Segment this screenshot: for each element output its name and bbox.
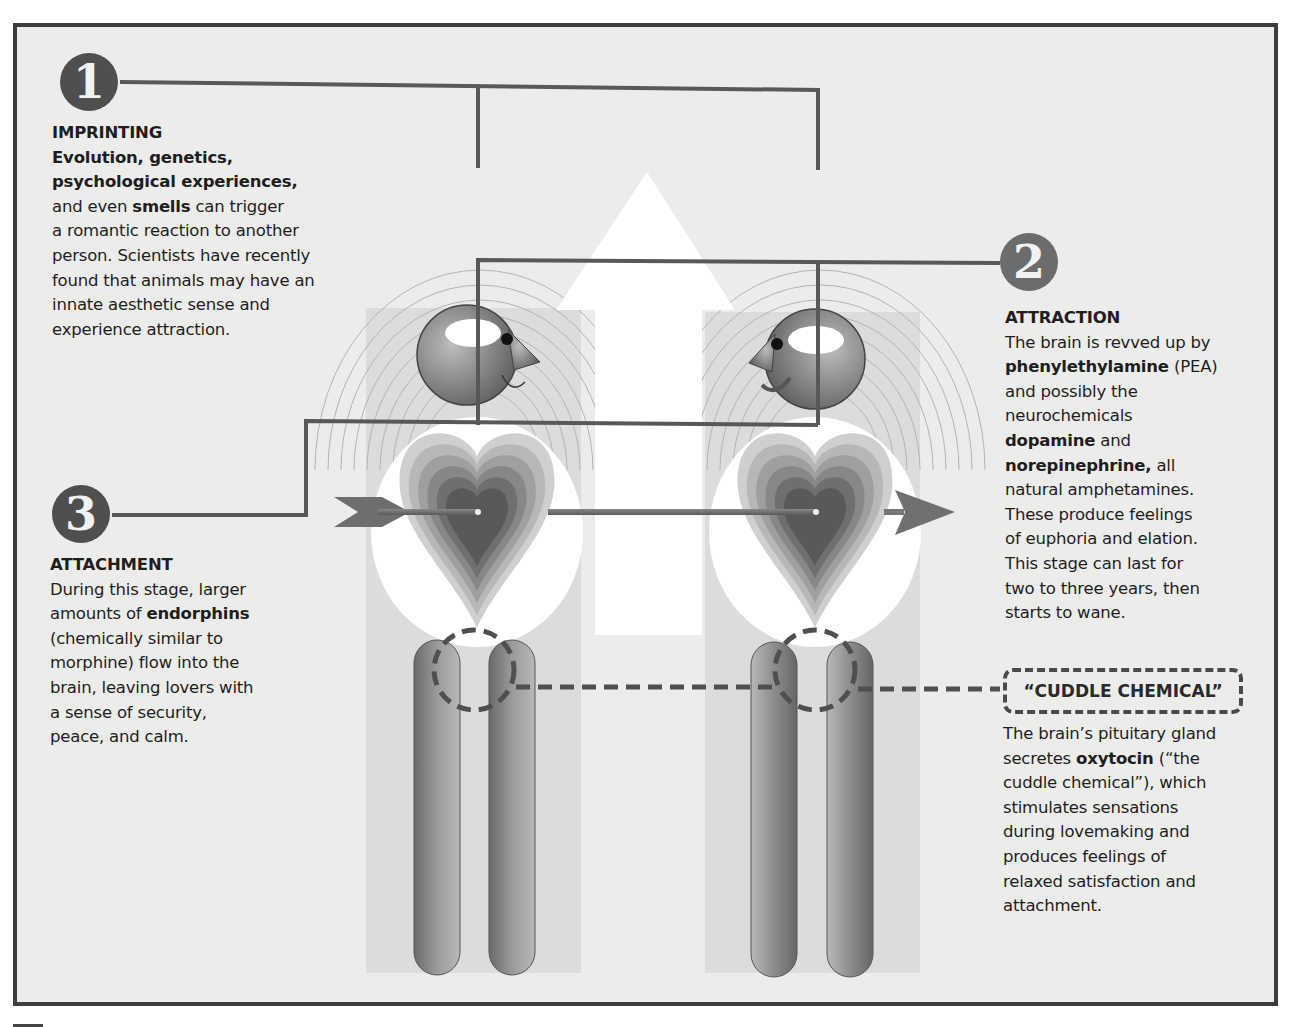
- stage-1-title: IMPRINTING: [52, 121, 342, 146]
- stage-1-badge: 1: [60, 53, 118, 111]
- emphasis-term: smells: [132, 197, 190, 216]
- text-segment: cuddle chemical”), which: [1003, 773, 1206, 792]
- text-segment: The brain is revved up by: [1005, 333, 1210, 352]
- text-segment: peace, and calm.: [50, 727, 189, 746]
- text-line: brain, leaving lovers with: [50, 676, 310, 701]
- text-segment: a romantic reaction to another: [52, 221, 299, 240]
- text-line: morphine) flow into the: [50, 651, 310, 676]
- stage-1-description: IMPRINTING Evolution, genetics,psycholog…: [52, 121, 342, 342]
- text-line: neurochemicals: [1005, 404, 1255, 429]
- stage-3-number: 3: [65, 487, 97, 541]
- text-line: during lovemaking and: [1003, 820, 1263, 845]
- stage-2-badge: 2: [1000, 233, 1058, 291]
- text-line: and possibly the: [1005, 380, 1255, 405]
- text-line: peace, and calm.: [50, 725, 310, 750]
- text-segment: attachment.: [1003, 896, 1102, 915]
- text-segment: of euphoria and elation.: [1005, 529, 1198, 548]
- text-segment: can trigger: [190, 197, 283, 216]
- emphasis-term: norepinephrine,: [1005, 456, 1151, 475]
- stage-2-title: ATTRACTION: [1005, 306, 1255, 331]
- text-line: two to three years, then: [1005, 577, 1255, 602]
- text-line: experience attraction.: [52, 318, 342, 343]
- text-segment: During this stage, larger: [50, 580, 246, 599]
- text-line: stimulates sensations: [1003, 796, 1263, 821]
- text-line: These produce feelings: [1005, 503, 1255, 528]
- text-line: phenylethylamine (PEA): [1005, 355, 1255, 380]
- cuddle-chemical-label: “CUDDLE CHEMICAL”: [1003, 668, 1243, 714]
- text-line: The brain is revved up by: [1005, 331, 1255, 356]
- text-line: person. Scientists have recently: [52, 244, 342, 269]
- text-segment: experience attraction.: [52, 320, 230, 339]
- emphasis-term: dopamine: [1005, 431, 1095, 450]
- text-segment: and: [1095, 431, 1131, 450]
- emphasis-term: endorphins: [146, 604, 249, 623]
- stage-2-body: The brain is revved up byphenylethylamin…: [1005, 331, 1255, 626]
- text-segment: and even: [52, 197, 132, 216]
- text-line: During this stage, larger: [50, 578, 310, 603]
- stage-3-badge: 3: [52, 485, 110, 543]
- text-line: a sense of security,: [50, 701, 310, 726]
- text-line: found that animals may have an: [52, 269, 342, 294]
- text-segment: two to three years, then: [1005, 579, 1200, 598]
- stage-1-number: 1: [73, 55, 105, 109]
- text-line: innate aesthetic sense and: [52, 293, 342, 318]
- text-segment: a sense of security,: [50, 703, 207, 722]
- text-line: This stage can last for: [1005, 552, 1255, 577]
- text-line: (chemically similar to: [50, 627, 310, 652]
- text-line: produces feelings of: [1003, 845, 1263, 870]
- text-segment: during lovemaking and: [1003, 822, 1189, 841]
- stage-2-description: ATTRACTION The brain is revved up byphen…: [1005, 306, 1255, 626]
- stage-2-number: 2: [1013, 235, 1045, 289]
- stage-1-body: Evolution, genetics,psychological experi…: [52, 146, 342, 343]
- text-line: natural amphetamines.: [1005, 478, 1255, 503]
- stage-3-description: ATTACHMENT During this stage, largeramou…: [50, 553, 310, 750]
- text-segment: The brain’s pituitary gland: [1003, 724, 1216, 743]
- text-line: attachment.: [1003, 894, 1263, 919]
- text-line: psychological experiences,: [52, 170, 342, 195]
- text-segment: person. Scientists have recently: [52, 246, 310, 265]
- cuddle-chemical-description: The brain’s pituitary glandsecretes oxyt…: [1003, 722, 1263, 919]
- text-segment: These produce feelings: [1005, 505, 1192, 524]
- text-segment: natural amphetamines.: [1005, 480, 1194, 499]
- text-line: dopamine and: [1005, 429, 1255, 454]
- text-segment: neurochemicals: [1005, 406, 1132, 425]
- text-segment: morphine) flow into the: [50, 653, 239, 672]
- text-segment: This stage can last for: [1005, 554, 1183, 573]
- text-segment: found that animals may have an: [52, 271, 315, 290]
- text-line: a romantic reaction to another: [52, 219, 342, 244]
- emphasis-term: oxytocin: [1076, 749, 1154, 768]
- text-line: of euphoria and elation.: [1005, 527, 1255, 552]
- text-line: secretes oxytocin (“the: [1003, 747, 1263, 772]
- stage-3-title: ATTACHMENT: [50, 553, 310, 578]
- text-segment: secretes: [1003, 749, 1076, 768]
- text-line: and even smells can trigger: [52, 195, 342, 220]
- text-segment: (chemically similar to: [50, 629, 223, 648]
- text-line: starts to wane.: [1005, 601, 1255, 626]
- text-segment: amounts of: [50, 604, 146, 623]
- emphasis-term: phenylethylamine: [1005, 357, 1169, 376]
- text-segment: brain, leaving lovers with: [50, 678, 253, 697]
- stage-3-body: During this stage, largeramounts of endo…: [50, 578, 310, 750]
- text-segment: innate aesthetic sense and: [52, 295, 270, 314]
- text-line: relaxed satisfaction and: [1003, 870, 1263, 895]
- emphasis-term: Evolution, genetics,: [52, 148, 233, 167]
- text-line: Evolution, genetics,: [52, 146, 342, 171]
- text-segment: (“the: [1154, 749, 1200, 768]
- text-line: norepinephrine, all: [1005, 454, 1255, 479]
- text-segment: all: [1151, 456, 1175, 475]
- text-segment: relaxed satisfaction and: [1003, 872, 1196, 891]
- emphasis-term: psychological experiences,: [52, 172, 297, 191]
- cuddle-chemical-body: The brain’s pituitary glandsecretes oxyt…: [1003, 722, 1263, 919]
- text-line: amounts of endorphins: [50, 602, 310, 627]
- text-segment: and possibly the: [1005, 382, 1138, 401]
- text-segment: starts to wane.: [1005, 603, 1126, 622]
- text-line: The brain’s pituitary gland: [1003, 722, 1263, 747]
- text-line: cuddle chemical”), which: [1003, 771, 1263, 796]
- text-segment: produces feelings of: [1003, 847, 1166, 866]
- text-segment: (PEA): [1169, 357, 1218, 376]
- text-segment: stimulates sensations: [1003, 798, 1178, 817]
